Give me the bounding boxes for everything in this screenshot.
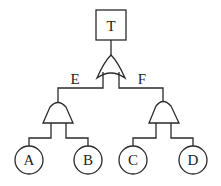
basic-event-B-label: B <box>83 152 93 168</box>
top-event-T: T <box>96 10 126 40</box>
connector-B <box>66 123 88 146</box>
basic-event-B: B <box>74 146 102 174</box>
and-gate-right-icon <box>149 102 179 124</box>
basic-event-C-label: C <box>128 152 138 168</box>
connector-E <box>58 72 103 102</box>
or-gate-icon <box>97 55 125 78</box>
basic-event-D: D <box>179 146 207 174</box>
top-event-label: T <box>106 18 115 34</box>
connector-C <box>133 123 156 146</box>
basic-event-D-label: D <box>188 152 199 168</box>
basic-event-A-label: A <box>24 152 35 168</box>
basic-event-C: C <box>119 146 147 174</box>
event-F-label: F <box>138 71 146 87</box>
connector-A <box>29 123 51 146</box>
basic-event-A: A <box>15 146 43 174</box>
event-E-label: E <box>70 71 79 87</box>
fault-tree-diagram: T E F A B C D <box>0 0 221 186</box>
and-gate-left-icon <box>43 103 73 124</box>
connector-D <box>171 123 193 146</box>
